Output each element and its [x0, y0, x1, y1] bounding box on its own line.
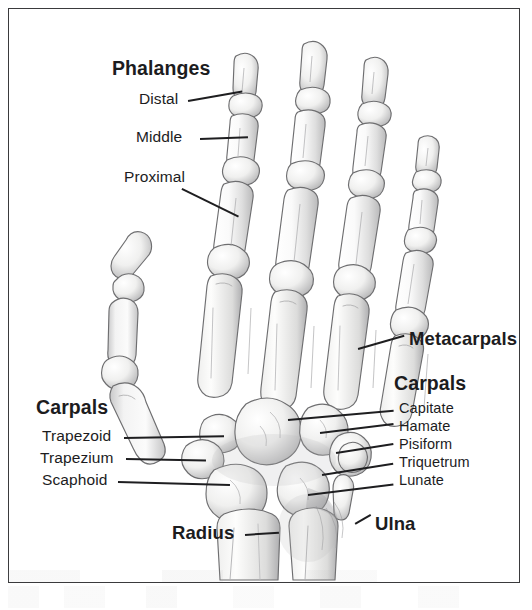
label-middle: Middle — [136, 128, 182, 146]
label-trapezium: Trapezium — [40, 449, 114, 467]
label-trapezoid: Trapezoid — [42, 427, 111, 445]
label-radius: Radius — [172, 522, 234, 544]
label-lunate: Lunate — [399, 472, 444, 488]
label-ulna: Ulna — [375, 513, 416, 535]
label-phalanges: Phalanges — [112, 57, 210, 80]
label-triquetrum: Triquetrum — [399, 454, 470, 470]
scan-artifact-lower — [8, 586, 520, 608]
label-capitate: Capitate — [399, 400, 454, 416]
label-carpals-left: Carpals — [36, 396, 108, 419]
label-metacarpals: Metacarpals — [409, 328, 517, 350]
hand-skeleton-illustration — [8, 8, 520, 583]
label-proximal: Proximal — [124, 168, 185, 186]
anatomy-figure: Phalanges Distal Middle Proximal Metacar… — [0, 0, 532, 610]
label-distal: Distal — [139, 90, 178, 108]
scan-artifact-upper — [8, 570, 520, 582]
label-scaphoid: Scaphoid — [42, 471, 107, 489]
label-hamate: Hamate — [399, 418, 450, 434]
label-carpals-right: Carpals — [394, 372, 466, 395]
label-pisiform: Pisiform — [399, 436, 452, 452]
